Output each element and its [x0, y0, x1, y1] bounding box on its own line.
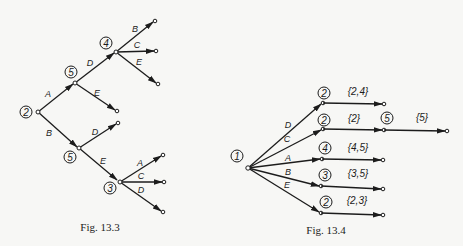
edge-label-D: D	[138, 185, 145, 195]
leaf-node	[153, 19, 157, 23]
edge-E-lower: E	[79, 148, 117, 180]
edge-label-C: C	[284, 134, 291, 144]
leaf-node	[162, 180, 166, 184]
edge-label-C: C	[138, 171, 145, 181]
node-set: {4,5}	[348, 142, 369, 153]
node-set: {5}	[416, 112, 429, 123]
leaf-node	[382, 102, 386, 106]
leaf-node	[115, 109, 119, 113]
edge-E-upper: E	[75, 83, 119, 113]
edge-label-D: D	[285, 120, 292, 130]
node-5-upper: 5	[65, 66, 77, 85]
leaf-node	[116, 121, 120, 125]
edge-label-E: E	[136, 57, 143, 67]
node-root-1: 1	[231, 150, 250, 170]
node-5-lower: 5	[64, 146, 81, 163]
edge-label-E: E	[94, 88, 101, 98]
leaf-node	[156, 82, 160, 86]
edge-E-from-4: E	[116, 52, 160, 86]
edge-label-A: A	[136, 158, 143, 168]
leaf-node	[381, 187, 385, 191]
node-value: 2	[22, 107, 29, 118]
branch-B: B 3 {3,5}	[248, 167, 385, 191]
node-set: {2,4}	[348, 86, 369, 97]
node-4: 4	[100, 37, 118, 54]
edge-label-D: D	[87, 58, 94, 68]
edge-D-from-3: D	[120, 182, 165, 214]
node-set: {2}	[348, 113, 361, 124]
figure-caption: Fig. 13.4	[306, 224, 346, 236]
leaf-node	[161, 210, 165, 214]
node-value: 3	[322, 170, 328, 181]
edge-label-E: E	[100, 156, 107, 166]
diagram-canvas: A B D E B C E	[0, 0, 463, 246]
figure-13-3: A B D E B C E	[20, 19, 166, 233]
node-3: 3	[104, 180, 122, 194]
node-set: {2,3}	[347, 195, 368, 206]
edge-label-B: B	[285, 167, 291, 177]
node-value: 5	[384, 113, 390, 124]
node-value: 4	[322, 143, 328, 154]
node-value: 5	[67, 152, 73, 163]
branch-A: A 4 {4,5}	[248, 142, 385, 169]
edge-A: A	[38, 84, 73, 112]
node-value: 2	[320, 88, 327, 99]
node-value: 2	[320, 115, 327, 126]
node-value: 1	[234, 151, 240, 162]
edge-label-A: A	[284, 153, 291, 163]
edge-label-A: A	[44, 89, 51, 99]
node-set: {3,5}	[348, 168, 369, 179]
edge-D-lower: D	[79, 121, 120, 148]
edge-label-D: D	[92, 127, 99, 137]
leaf-node	[161, 153, 165, 157]
branch-D: D 2 {2,4}	[248, 86, 386, 169]
edge-D-upper: D	[75, 53, 114, 83]
leaf-node	[154, 49, 158, 53]
node-root-2: 2	[20, 106, 40, 118]
node-value: 5	[68, 67, 74, 78]
edge-label-C: C	[134, 40, 141, 50]
leaf-node	[381, 213, 385, 217]
leaf-node	[381, 158, 385, 162]
edge-label-B: B	[132, 24, 138, 34]
figure-13-4: D 2 {2,4} C 2 {2} 5 {5} A	[231, 86, 449, 237]
edge-label-B: B	[46, 128, 52, 138]
figure-caption: Fig. 13.3	[80, 221, 120, 233]
node-value: 3	[107, 183, 113, 194]
node-value: 4	[103, 38, 109, 49]
edge-B: B	[38, 112, 77, 147]
edge-label-E: E	[284, 180, 291, 190]
leaf-node	[445, 129, 449, 133]
node-value: 2	[322, 197, 329, 208]
